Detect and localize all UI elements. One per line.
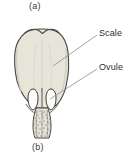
callout-label-ovule: Ovule — [99, 62, 123, 72]
botanical-figure: (a) — [0, 0, 137, 157]
panel-label-b: (b) — [32, 142, 44, 152]
specimen-illustration — [0, 0, 137, 157]
ovule-right — [46, 89, 56, 110]
ovule-left — [28, 89, 38, 110]
callout-label-scale: Scale — [99, 28, 122, 38]
